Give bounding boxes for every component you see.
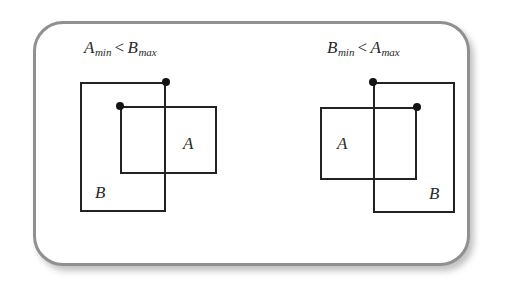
caption-right-operator: < <box>354 38 370 57</box>
figure-canvas: Amin<Bmax B A Bmin<Amax B A <box>0 0 507 286</box>
caption-right-first-sub: min <box>338 46 355 58</box>
caption-right-first-var: B <box>327 38 338 57</box>
corner-dot-a-max-right <box>413 103 421 111</box>
rectangle-label-a-right: A <box>337 134 347 154</box>
panel-right: Bmin<Amax B A <box>0 0 507 286</box>
caption-right-formula: Bmin<Amax <box>327 38 400 58</box>
rectangle-label-b-right: B <box>429 184 439 204</box>
caption-right-second-sub: max <box>381 46 399 58</box>
caption-right-second-var: A <box>370 38 381 57</box>
corner-dot-b-min-right <box>369 78 377 86</box>
rectangle-a-right-panel <box>320 107 417 180</box>
